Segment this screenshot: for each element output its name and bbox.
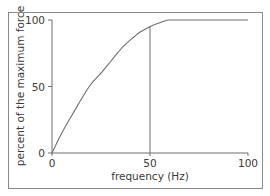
y-tick-label: 100	[25, 14, 45, 26]
y-axis-label: percent of the maximum force	[14, 6, 26, 166]
y-tick-label: 0	[38, 147, 45, 159]
y-tick-label: 50	[32, 81, 45, 93]
x-tick-label: 50	[143, 157, 156, 169]
chart: 050100050100 percent of the maximum forc…	[0, 0, 270, 196]
x-tick-label: 100	[238, 157, 258, 169]
x-tick-label: 0	[49, 157, 56, 169]
x-axis-label: frequency (Hz)	[111, 170, 189, 182]
plot-area	[52, 20, 248, 153]
axes: 050100050100	[25, 14, 258, 169]
